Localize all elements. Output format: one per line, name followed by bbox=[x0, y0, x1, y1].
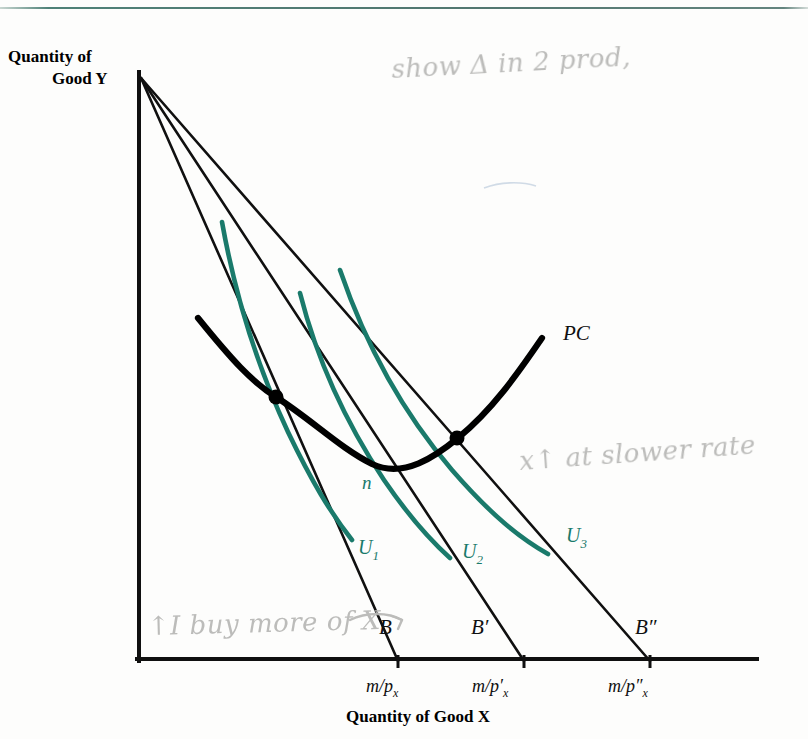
scan-smudge bbox=[484, 183, 536, 188]
x-tick-label-2: m/p″x bbox=[608, 676, 649, 700]
figure-canvas: PC n U1 U2 U3 B B′ B″ m/px bbox=[0, 0, 808, 739]
x-axis-ticks bbox=[398, 655, 650, 668]
tick0-sub: x bbox=[392, 686, 399, 700]
y-axis-title-line1: Quantity of bbox=[8, 47, 92, 66]
pc-curve-label: PC bbox=[562, 321, 591, 345]
indifference-curve-labels: U1 U2 U3 bbox=[358, 524, 587, 567]
budget-line-label-b-prime: B′ bbox=[471, 615, 489, 639]
page-edge-rule bbox=[0, 7, 808, 9]
handwritten-note-top: show Δ in 2 prod, bbox=[391, 41, 632, 83]
budget-line-b-double-prime bbox=[141, 78, 650, 661]
tangency-point-3 bbox=[450, 431, 465, 446]
budget-line-b-prime bbox=[141, 78, 524, 661]
x-tick-label-0: m/px bbox=[366, 676, 399, 700]
u2-subscript: 2 bbox=[476, 552, 483, 567]
handwritten-note-bottom: ↑I buy more of X bbox=[147, 605, 382, 641]
tick0-main: m/p bbox=[366, 676, 393, 696]
x-axis-title: Quantity of Good X bbox=[346, 707, 491, 726]
x-tick-label-1: m/p′x bbox=[472, 676, 509, 700]
x-tick-labels: m/px m/p′x m/p″x bbox=[366, 676, 649, 700]
axes bbox=[137, 72, 757, 661]
optimum-point-label-n: n bbox=[362, 472, 372, 493]
indifference-curve-label-u1: U1 bbox=[358, 536, 379, 563]
handwritten-note-right: x↑ at slower rate bbox=[518, 430, 756, 476]
tick2-main: m/p bbox=[608, 676, 635, 696]
tick2-sub: x bbox=[642, 686, 649, 700]
tick1-sub: x bbox=[502, 686, 509, 700]
budget-line-labels: B B′ B″ bbox=[379, 615, 657, 639]
indifference-curve-label-u2: U2 bbox=[462, 540, 483, 567]
budget-line-b bbox=[141, 78, 398, 661]
u1-subscript: 1 bbox=[372, 548, 379, 563]
y-axis-title-line2: Good Y bbox=[52, 69, 108, 88]
price-consumption-curve-diagram: PC n U1 U2 U3 B B′ B″ m/px bbox=[0, 0, 808, 739]
indifference-curve-u1 bbox=[222, 222, 352, 540]
u3-subscript: 3 bbox=[579, 536, 587, 551]
tick1-main: m/p bbox=[472, 676, 499, 696]
indifference-curve-u2 bbox=[300, 293, 450, 558]
budget-lines bbox=[141, 78, 650, 661]
indifference-curve-u3 bbox=[340, 270, 548, 554]
tangency-point-1 bbox=[269, 390, 284, 405]
indifference-curve-label-u3: U3 bbox=[566, 524, 587, 551]
budget-line-label-b-double-prime: B″ bbox=[635, 615, 657, 639]
